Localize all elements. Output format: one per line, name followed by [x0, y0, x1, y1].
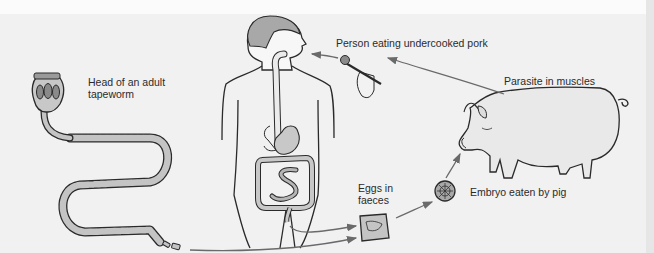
tapeworm-head-icon — [32, 73, 63, 112]
label-tapeworm-head: Head of an adult tapeworm — [88, 76, 165, 100]
label-tapeworm-head-line1: Head of an adult — [88, 76, 165, 88]
faeces-eggs-icon — [360, 214, 389, 241]
label-eggs-line2: faeces — [358, 194, 393, 206]
label-person-eating: Person eating undercooked pork — [336, 37, 488, 49]
human-figure-icon — [222, 16, 334, 248]
label-eggs-line1: Eggs in — [358, 182, 393, 194]
label-embryo: Embryo eaten by pig — [470, 186, 566, 198]
tapeworm-icon — [44, 112, 180, 250]
embryo-icon — [435, 181, 455, 201]
tapeworm-lifecycle-diagram: Head of an adult tapeworm Person eating … — [0, 0, 654, 253]
label-eggs-faeces: Eggs in faeces — [358, 182, 393, 206]
fork-with-pork-icon — [341, 56, 382, 98]
label-parasite-muscles: Parasite in muscles — [504, 75, 595, 87]
label-tapeworm-head-line2: tapeworm — [88, 88, 165, 100]
diagram-artwork — [0, 0, 654, 253]
pig-icon — [459, 87, 628, 178]
